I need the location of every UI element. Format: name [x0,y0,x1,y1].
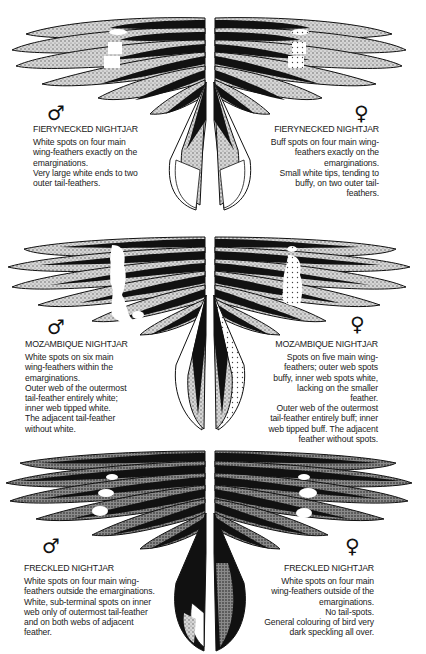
male-caption: MOZAMBIQUE NIGHTJAR White spots on six m… [25,339,175,434]
caption-line: emarginations. [33,158,183,168]
female-caption: FIERYNECKED NIGHTJAR Buff spots on four … [236,124,379,198]
caption-line: The adjacent tail-feather [25,413,175,423]
species-name: FRECKLED NIGHTJAR [236,563,374,573]
caption-line: feathers exactly on the [236,147,379,157]
species-name: FIERYNECKED NIGHTJAR [236,124,379,134]
caption-line: buffy, inner web spots white, [232,373,378,383]
species-name: MOZAMBIQUE NIGHTJAR [25,339,175,349]
caption-line: inner web tipped white. [25,403,175,413]
species-name: MOZAMBIQUE NIGHTJAR [232,339,378,349]
male-caption: FIERYNECKED NIGHTJAR White spots on four… [33,124,183,188]
male-symbol: ♂ [42,536,60,556]
caption-line: and on both webs of adjacent [24,617,179,627]
caption-line: tail-feather entirely buff; inner [232,413,378,423]
species-name: FIERYNECKED NIGHTJAR [33,124,183,134]
caption-line: Buff spots on four main wing- [236,137,379,147]
plate-freckled: ♂ ♀ FRECKLED NIGHTJAR White spots on fou… [0,443,426,654]
caption-line: buffy, on two outer tail- [236,178,379,188]
female-symbol: ♀ [350,314,365,334]
caption-line: outer tail-feathers. [33,178,183,188]
caption-line: dark speckling all over. [236,627,374,637]
female-symbol: ♀ [345,536,360,556]
female-caption: MOZAMBIQUE NIGHTJAR Spots on five main w… [232,339,378,444]
caption-line: feathers. [236,188,379,198]
caption-line: White, sub-terminal spots on inner [24,597,179,607]
caption-line: emarginations. [236,597,374,607]
plate-fierynecked: ♂ ♀ FIERYNECKED NIGHTJAR White spots on … [0,0,426,220]
plate-mozambique: ♂ ♀ MOZAMBIQUE NIGHTJAR White spots on s… [0,225,426,435]
caption-line: wing-feathers exactly on the [33,147,183,157]
caption-line: White spots on four main [33,137,183,147]
male-caption: FRECKLED NIGHTJAR White spots on four ma… [24,563,179,637]
caption-line: White spots on four main wing- [24,576,179,586]
caption-line: Very large white ends to two [33,168,183,178]
caption-line: Small white tips, tending to [236,168,379,178]
caption-line: emarginations. [25,373,175,383]
caption-line: Outer web of the outermost [25,383,175,393]
caption-line: General colouring of bird very [236,617,374,627]
caption-line: feathers outside the emarginations. [24,586,179,596]
caption-line: wing-feathers within the [25,362,175,372]
caption-line: without white. [25,424,175,434]
caption-line: Outer web of the outermost [232,403,378,413]
caption-line: feather. [232,393,378,403]
male-symbol: ♂ [47,317,65,337]
caption-line: White spots on six main [25,352,175,362]
species-name: FRECKLED NIGHTJAR [24,563,179,573]
caption-line: No tail-spots. [236,607,374,617]
caption-line: Spots on five main wing- [232,352,378,362]
caption-line: wing-feathers outside of the [236,586,374,596]
caption-line: feathers; outer web spots [232,362,378,372]
caption-line: White spots on four main [236,576,374,586]
male-symbol: ♂ [47,103,65,123]
caption-line: feather. [24,627,179,637]
caption-line: tail-feather entirely white; [25,393,175,403]
female-caption: FRECKLED NIGHTJAR White spots on four ma… [236,563,374,637]
caption-line: emarginations. [236,158,379,168]
caption-line: web tipped buff. The adjacent [232,424,378,434]
female-symbol: ♀ [354,103,369,123]
caption-line: lacking on the smaller [232,383,378,393]
caption-line: web only of outermost tail-feather [24,607,179,617]
